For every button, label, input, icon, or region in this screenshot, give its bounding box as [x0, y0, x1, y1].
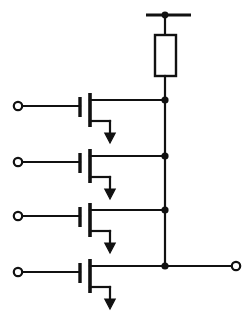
pull-up-resistor-body — [155, 35, 176, 76]
supply-rail-group — [146, 12, 191, 35]
vdd-junction-dot — [162, 12, 169, 19]
output-terminal-group[interactable] — [165, 262, 240, 270]
input-terminal-ring-2[interactable] — [14, 158, 22, 166]
input-terminal-ring-1[interactable] — [14, 102, 22, 110]
bus-node-dot-1 — [161, 96, 168, 103]
circuit-diagram — [0, 0, 252, 315]
transistor-2 — [14, 149, 169, 199]
input-terminal-ring-3[interactable] — [14, 212, 22, 220]
transistor-layer — [14, 93, 169, 309]
pull-up-resistor-group — [155, 35, 176, 100]
source-arrow-3 — [105, 243, 115, 253]
transistor-4 — [14, 259, 169, 309]
schematic-canvas — [0, 0, 252, 315]
transistor-3 — [14, 203, 169, 253]
source-arrow-4 — [105, 299, 115, 309]
input-terminal-ring-4[interactable] — [14, 268, 22, 276]
source-arrow-1 — [105, 133, 115, 143]
bus-node-dot-3 — [161, 206, 168, 213]
output-terminal-ring[interactable] — [232, 262, 240, 270]
source-arrow-2 — [105, 189, 115, 199]
bus-node-dot-2 — [161, 152, 168, 159]
transistor-1 — [14, 93, 169, 143]
